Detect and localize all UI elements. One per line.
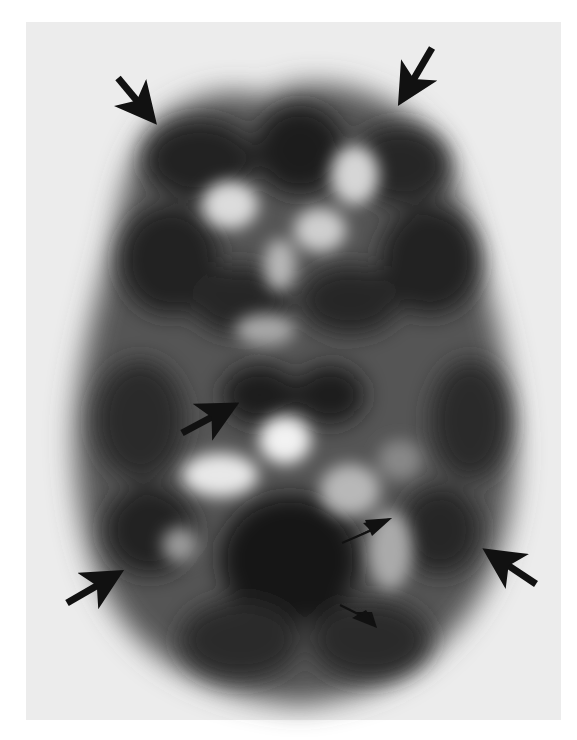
- arrow-mid-left: [182, 409, 227, 433]
- arrow-bottom-left: [67, 577, 112, 603]
- arrow-top-left: [118, 78, 148, 114]
- arrowhead-lower: [340, 605, 377, 628]
- arrowhead-upper: [342, 518, 392, 543]
- annotation-layer: [0, 0, 577, 740]
- arrow-bottom-right: [494, 556, 536, 584]
- arrow-top-right: [405, 48, 432, 94]
